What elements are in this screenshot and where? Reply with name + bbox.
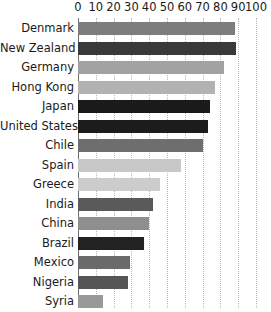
bar (78, 276, 128, 289)
bar (78, 61, 224, 74)
bar (78, 217, 149, 230)
category-label: Greece (0, 178, 74, 191)
category-label: Nigeria (0, 276, 74, 289)
x-tick-label: 40 (142, 1, 157, 14)
x-tick-label: 20 (106, 1, 121, 14)
category-label: India (0, 198, 74, 211)
bar (78, 139, 203, 152)
bar (78, 198, 153, 211)
bars-layer (78, 18, 256, 308)
category-label: United States (0, 120, 74, 133)
x-tick-label: 90 (231, 1, 246, 14)
bar (78, 159, 181, 172)
bar (78, 237, 144, 250)
x-tick-label: 0 (74, 1, 81, 14)
x-tick-label: 30 (124, 1, 139, 14)
x-tick-label: 100 (245, 1, 267, 14)
category-label: Hong Kong (0, 81, 74, 94)
x-tick-label: 50 (160, 1, 175, 14)
category-label: Syria (0, 295, 74, 308)
category-label: Brazil (0, 237, 74, 250)
category-label: Spain (0, 159, 74, 172)
bar (78, 120, 208, 133)
bar (78, 100, 210, 113)
x-tick-label: 10 (88, 1, 103, 14)
category-label: Japan (0, 100, 74, 113)
gridline-100 (256, 18, 257, 308)
bar (78, 256, 130, 269)
x-axis-tick-labels: 0102030405060708090100 (0, 0, 271, 18)
bar (78, 42, 236, 55)
bar-chart: 0102030405060708090100 DenmarkNew Zealan… (0, 0, 271, 312)
bar (78, 81, 215, 94)
category-axis-labels: DenmarkNew ZealandGermanyHong KongJapanU… (0, 18, 74, 308)
category-label: Germany (0, 61, 74, 74)
category-label: Chile (0, 139, 74, 152)
category-label: Denmark (0, 22, 74, 35)
category-label: New Zealand (0, 42, 74, 55)
bar (78, 295, 103, 308)
bar (78, 178, 160, 191)
category-label: China (0, 217, 74, 230)
x-tick-label: 80 (213, 1, 228, 14)
x-tick-label: 70 (195, 1, 210, 14)
category-label: Mexico (0, 256, 74, 269)
bar (78, 22, 235, 35)
x-tick-label: 60 (177, 1, 192, 14)
plot-area (78, 18, 256, 308)
